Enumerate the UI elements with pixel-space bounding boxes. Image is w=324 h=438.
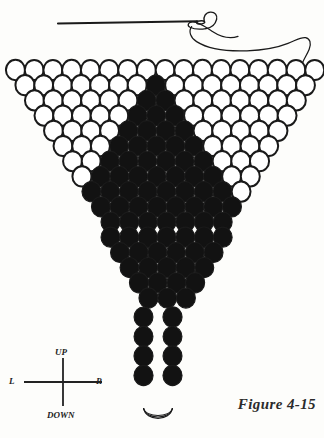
- legend-label-down: DOWN: [47, 410, 75, 420]
- legend-label-right: R: [96, 376, 102, 386]
- legend-label-left: L: [9, 376, 15, 386]
- bead-filled: [134, 365, 153, 385]
- needle-shaft: [58, 21, 197, 23]
- bead-filled: [176, 288, 195, 308]
- thread-lower-strand: [190, 27, 310, 63]
- bead-row: [139, 288, 195, 308]
- bead-filled: [163, 346, 182, 366]
- bead-filled: [163, 326, 182, 346]
- bead-row: [6, 60, 324, 80]
- bead-filled: [134, 326, 153, 346]
- bead-filled: [163, 307, 182, 327]
- fringe-column: [163, 307, 182, 386]
- thread-upper-strand: [188, 22, 238, 38]
- beadwork-diagram: [0, 0, 324, 438]
- bead-rows-group: [6, 60, 324, 308]
- bead-filled: [163, 365, 182, 385]
- needle-head-curl: [204, 12, 217, 29]
- bead-filled: [134, 346, 153, 366]
- fringe-group: [134, 307, 182, 419]
- bead-filled: [134, 307, 153, 327]
- bead-filled: [139, 288, 158, 308]
- fringe-column: [134, 307, 153, 386]
- needle-and-thread-icon: [58, 12, 310, 63]
- figure-container: UP DOWN L R Figure 4-15: [0, 0, 324, 438]
- figure-caption: Figure 4-15: [238, 396, 316, 413]
- direction-legend-cross: [24, 358, 102, 406]
- legend-label-up: UP: [55, 347, 67, 357]
- bead-filled: [158, 288, 177, 308]
